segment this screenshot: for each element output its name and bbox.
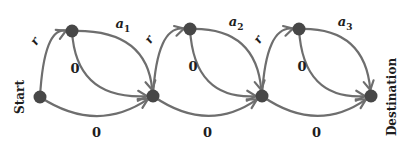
edge-label-7: 0: [203, 125, 212, 140]
edge-label-8: r: [250, 31, 266, 46]
edge-n2-n3-bottom: [262, 96, 366, 116]
edge-label-subscript: 3: [346, 22, 352, 32]
node-u1-intermediate: [66, 25, 79, 38]
edge-label-4: r: [141, 31, 157, 46]
node-u2-intermediate: [184, 23, 197, 36]
edge-n1-n2-bottom: [153, 96, 257, 116]
edge-label-subscript: 2: [237, 22, 243, 32]
edge-u2-n2-inner: [190, 29, 256, 96]
edge-label-0: r: [27, 33, 43, 48]
destination-label: Destination: [385, 58, 399, 137]
edge-u3-n3-outer: [299, 29, 370, 90]
edge-label-9: a3: [338, 14, 353, 32]
edge-label-5: a2: [229, 14, 244, 32]
edge-label-3: 0: [92, 125, 101, 140]
edge-n2-u3: [262, 28, 293, 96]
edge-label-2: 0: [70, 61, 79, 76]
node-n3-destination: [365, 90, 378, 103]
edge-u3-n3-inner: [299, 29, 365, 96]
node-n1-junction: [147, 90, 160, 103]
edge-n0-u1: [40, 30, 66, 97]
route-diagram: ra100ra200ra300 Start Destination: [0, 0, 409, 147]
edge-label-1: a1: [115, 16, 130, 34]
edge-n0-n1-bottom: [40, 97, 148, 116]
nodes-layer: [34, 23, 378, 104]
edge-label-11: 0: [312, 125, 321, 140]
edge-label-subscript: 1: [124, 24, 130, 34]
node-n2-junction: [256, 90, 269, 103]
edge-u1-n1-outer: [72, 31, 152, 90]
edge-u1-n1-inner: [72, 31, 147, 96]
edge-n0-u1-arrowhead: [56, 30, 66, 39]
node-u3-intermediate: [293, 23, 306, 36]
edges-layer: [40, 26, 374, 116]
node-n0-start: [34, 91, 47, 104]
edge-n2-u3-arrowhead: [283, 26, 293, 36]
edge-label-6: 0: [188, 59, 197, 74]
edge-label-10: 0: [297, 59, 306, 74]
start-label: Start: [13, 80, 27, 114]
edge-n1-u2-arrowhead: [174, 26, 184, 36]
edge-n1-u2: [153, 28, 184, 96]
